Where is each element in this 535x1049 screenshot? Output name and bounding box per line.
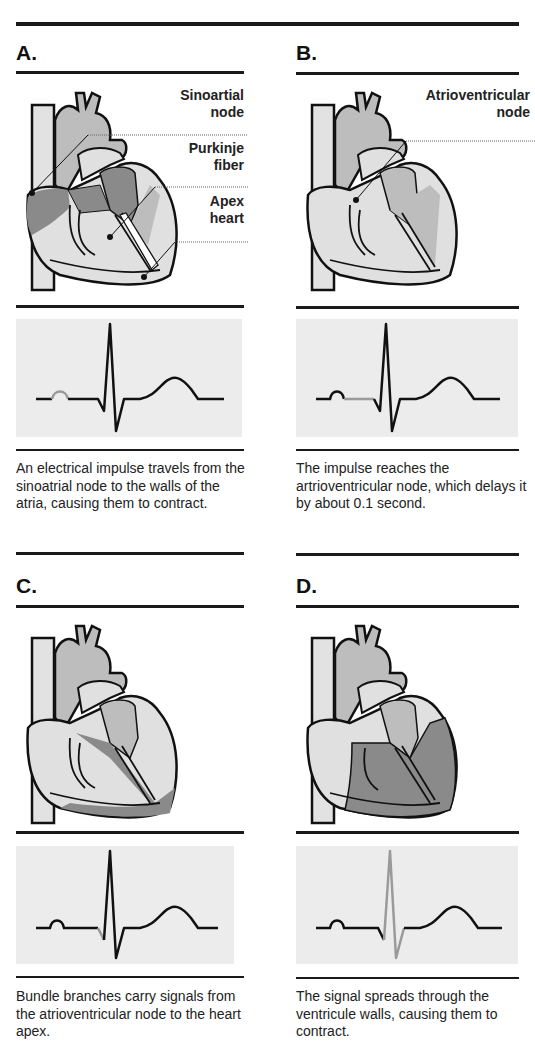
divider [16, 976, 244, 978]
label-line: Atrioventricular [426, 87, 530, 103]
label-line: Sinoartial [180, 87, 244, 103]
divider [296, 553, 519, 556]
label-line: fiber [214, 157, 244, 173]
caption: Bundle branches carry signals from the a… [16, 988, 251, 1041]
divider [296, 831, 519, 834]
ecg-trace [16, 319, 242, 437]
caption: The signal spreads through the ventricul… [296, 988, 531, 1041]
label-purkinje-fiber: Purkinjefiber [150, 140, 244, 174]
panel-letter: A. [16, 41, 37, 65]
top-rule [16, 22, 519, 26]
label-atrioventricular-node: Atrioventricularnode [395, 87, 530, 121]
panel-letter: B. [296, 41, 317, 65]
divider [16, 831, 244, 834]
divider [16, 449, 244, 451]
divider [16, 552, 244, 555]
ecg-trace [16, 846, 234, 964]
divider [16, 305, 244, 308]
divider [296, 72, 519, 75]
label-line: Apex [210, 193, 244, 209]
caption: An electrical impulse travels from the s… [16, 460, 246, 513]
divider [296, 449, 519, 451]
divider [16, 71, 244, 74]
divider [296, 306, 519, 309]
label-line: Purkinje [189, 140, 244, 156]
ecg-trace [296, 846, 518, 964]
ecg-trace [296, 319, 518, 437]
divider [296, 977, 519, 979]
label-line: heart [210, 210, 244, 226]
heart-illustration [10, 618, 250, 828]
heart-illustration [290, 618, 535, 828]
label-line: node [497, 104, 530, 120]
divider [16, 605, 244, 608]
panel-letter: C. [16, 574, 37, 598]
panel-letter: D. [296, 574, 317, 598]
label-sinoatrial-node: Sinoartialnode [150, 87, 244, 121]
divider [296, 605, 519, 608]
label-apex-heart: Apexheart [150, 193, 244, 227]
caption: The impulse reaches the artrioventricula… [296, 460, 531, 513]
label-line: node [211, 104, 244, 120]
